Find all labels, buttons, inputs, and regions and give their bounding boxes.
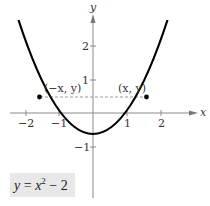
y-tick-label: −1 [74, 141, 90, 154]
eq-y: y [14, 178, 20, 193]
x-tick-label: −2 [18, 117, 34, 130]
eq-rest: − 2 [49, 178, 67, 193]
y-tick-label: 2 [82, 40, 89, 53]
equation-label: y = x2 − 2 [14, 176, 68, 194]
x-tick-label: 1 [124, 117, 131, 130]
x-axis-label: x [200, 106, 207, 119]
eq-exponent: 2 [41, 176, 46, 186]
eq-equals: = [24, 178, 32, 193]
y-axis-label: y [89, 1, 97, 14]
x-tick-label: 2 [158, 117, 165, 130]
point-left [37, 95, 42, 100]
x-axis-arrow-icon [189, 111, 198, 116]
y-tick-label: 1 [82, 74, 89, 87]
point-right [144, 95, 149, 100]
point-left-label: (−x, y) [44, 82, 81, 95]
y-axis-arrow-icon [91, 14, 96, 23]
point-right-label: (x, y) [118, 82, 146, 95]
